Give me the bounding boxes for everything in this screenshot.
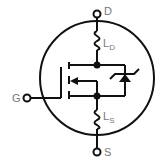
source-terminal — [94, 149, 101, 156]
source-inductor-label: LS — [103, 111, 114, 122]
source-inductor — [95, 110, 100, 129]
schematic — [0, 0, 166, 168]
source-label: S — [104, 147, 111, 158]
drain-label: D — [104, 6, 112, 17]
drain-inductor-label: LD — [103, 38, 115, 49]
gate-terminal — [24, 95, 31, 102]
gate-label: G — [12, 93, 21, 104]
package-outline — [40, 21, 154, 135]
mosfet-diagram: D G S LD LS — [0, 0, 166, 168]
drain-terminal — [94, 11, 101, 18]
drain-inductor — [95, 31, 100, 50]
